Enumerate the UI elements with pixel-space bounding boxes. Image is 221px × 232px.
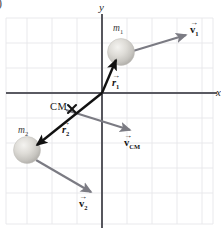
x-axis-label: x: [216, 87, 221, 98]
sphere-m1: [108, 39, 135, 66]
position-vectors: [37, 60, 116, 145]
mass-spheres: [14, 39, 135, 164]
physics-figure-center-of-mass: ) y x m1 m2 CM →r1 →r2 →v1 →vCM →v2: [0, 0, 221, 232]
vector-label-r1: →r1: [112, 78, 119, 91]
figure-canvas: [0, 0, 221, 232]
center-of-mass-label: CM: [50, 102, 67, 113]
vector-label-v2: →v2: [79, 199, 88, 212]
sphere-m2: [14, 137, 41, 164]
vector-label-r2: →r2: [62, 125, 69, 138]
figure-corner-label: ): [0, 0, 2, 9]
vector-label-v1: →v1: [190, 25, 199, 38]
vector-v2: [36, 160, 91, 192]
mass-label-m1: m1: [113, 24, 123, 35]
vector-label-vcm: →vCM: [124, 138, 140, 151]
y-axis-label: y: [99, 2, 104, 13]
mass-label-m2: m2: [18, 126, 28, 137]
